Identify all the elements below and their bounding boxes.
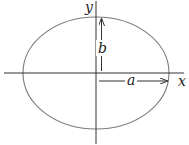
semi-major-label: a [127, 72, 135, 88]
y-axis-label: y [84, 0, 94, 15]
ellipse-diagram: y x b a [0, 0, 189, 145]
semi-minor-label: b [98, 40, 107, 56]
x-axis-label: x [178, 73, 186, 89]
diagram-canvas: y x b a [0, 0, 189, 145]
